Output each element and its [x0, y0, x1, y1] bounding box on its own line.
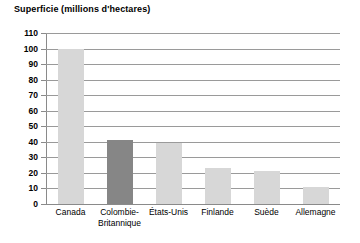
gridline	[46, 173, 340, 174]
gridline	[46, 64, 340, 65]
plot-area	[46, 33, 340, 204]
bar	[205, 168, 231, 204]
gridline	[46, 126, 340, 127]
y-tick-mark	[41, 64, 46, 65]
y-tick-label: 20	[2, 169, 38, 178]
y-tick-mark	[41, 188, 46, 189]
y-tick-mark	[41, 126, 46, 127]
gridline	[46, 142, 340, 143]
bar	[254, 171, 280, 204]
y-tick-label: 0	[2, 200, 38, 209]
y-tick-mark	[41, 142, 46, 143]
y-tick-mark	[41, 49, 46, 50]
bar	[58, 49, 84, 204]
y-tick-label: 110	[2, 29, 38, 38]
gridline	[46, 157, 340, 158]
gridline	[46, 188, 340, 189]
bar-chart: Superficie (millions d'hectares) 1101009…	[0, 0, 360, 243]
y-tick-mark	[41, 157, 46, 158]
y-tick-label: 10	[2, 184, 38, 193]
y-axis-labels: 1101009080706050403020100	[0, 0, 38, 243]
y-tick-label: 80	[2, 75, 38, 84]
y-tick-label: 100	[2, 44, 38, 53]
x-axis-labels: CanadaColombie- BritanniqueÉtats-UnisFin…	[46, 207, 340, 243]
gridline	[46, 80, 340, 81]
gridline	[46, 33, 340, 34]
y-tick-mark	[41, 33, 46, 34]
bar	[156, 143, 182, 204]
y-tick-label: 90	[2, 60, 38, 69]
x-tick-label: Allemagne	[287, 207, 344, 218]
y-tick-mark	[41, 111, 46, 112]
gridline	[46, 49, 340, 50]
gridline	[46, 95, 340, 96]
y-tick-label: 40	[2, 138, 38, 147]
bar	[107, 140, 133, 204]
bar	[303, 187, 329, 204]
y-tick-mark	[41, 173, 46, 174]
gridline	[46, 204, 340, 205]
y-tick-label: 30	[2, 153, 38, 162]
y-tick-mark	[41, 95, 46, 96]
y-tick-mark	[41, 80, 46, 81]
gridline	[46, 111, 340, 112]
y-tick-mark	[41, 204, 46, 205]
y-tick-label: 70	[2, 91, 38, 100]
y-tick-label: 60	[2, 106, 38, 115]
y-tick-label: 50	[2, 122, 38, 131]
